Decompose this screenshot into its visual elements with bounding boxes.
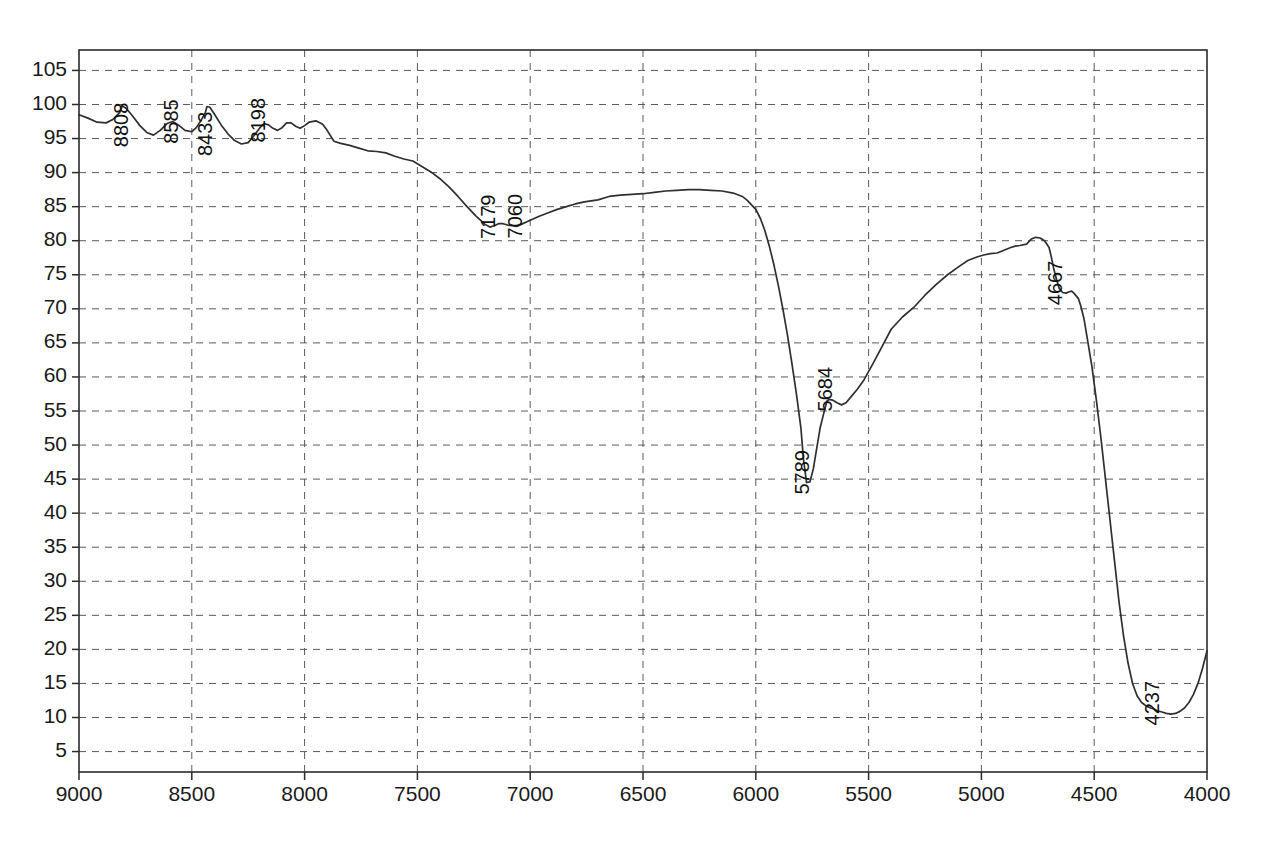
peak-label: 4237	[1141, 681, 1163, 726]
y-tick-label: 55	[44, 398, 67, 421]
y-axis-tick-labels: 5101520253035404550556065707580859095100…	[32, 57, 67, 761]
x-tick-label: 8500	[168, 782, 215, 805]
spectrum-plot-svg: 5101520253035404550556065707580859095100…	[0, 0, 1276, 846]
peak-label: 8585	[160, 99, 182, 144]
spectrum-chart: 5101520253035404550556065707580859095100…	[0, 0, 1276, 846]
peak-label: 5684	[814, 367, 836, 412]
y-tick-label: 105	[32, 57, 67, 80]
peak-label: 7060	[504, 194, 526, 239]
peak-label: 4667	[1044, 261, 1066, 306]
y-tick-label: 100	[32, 91, 67, 114]
y-tick-label: 35	[44, 534, 67, 557]
peak-label: 8433	[194, 112, 216, 157]
x-axis-tick-labels: 9000850080007500700065006000550050004500…	[56, 782, 1231, 805]
x-tick-label: 9000	[56, 782, 103, 805]
x-tick-label: 7500	[394, 782, 441, 805]
y-tick-label: 50	[44, 432, 67, 455]
y-tick-label: 65	[44, 329, 67, 352]
x-tick-label: 5500	[845, 782, 892, 805]
y-tick-label: 20	[44, 636, 67, 659]
y-tick-label: 90	[44, 159, 67, 182]
x-tick-label: 6500	[620, 782, 667, 805]
y-tick-label: 25	[44, 602, 67, 625]
y-tick-label: 95	[44, 125, 67, 148]
y-tick-label: 60	[44, 363, 67, 386]
x-tick-label: 7000	[507, 782, 554, 805]
y-tick-label: 75	[44, 261, 67, 284]
y-tick-label: 30	[44, 568, 67, 591]
peak-label: 5789	[791, 450, 813, 495]
peak-label: 8198	[247, 98, 269, 143]
x-tick-label: 8000	[281, 782, 328, 805]
y-tick-label: 40	[44, 500, 67, 523]
x-tick-label: 6000	[732, 782, 779, 805]
peak-label: 7179	[477, 195, 499, 240]
peak-annotations: 8808858584338198717970605789568446674237	[110, 98, 1163, 726]
y-tick-label: 80	[44, 227, 67, 250]
y-tick-label: 70	[44, 295, 67, 318]
y-tick-label: 45	[44, 466, 67, 489]
x-tick-label: 4000	[1184, 782, 1231, 805]
y-tick-label: 15	[44, 670, 67, 693]
gridlines	[79, 50, 1207, 772]
x-tick-label: 4500	[1071, 782, 1118, 805]
peak-label: 8808	[110, 103, 132, 148]
x-tick-label: 5000	[958, 782, 1005, 805]
axis-ticks	[72, 70, 1207, 780]
y-tick-label: 10	[44, 704, 67, 727]
y-tick-label: 85	[44, 193, 67, 216]
y-tick-label: 5	[55, 738, 67, 761]
